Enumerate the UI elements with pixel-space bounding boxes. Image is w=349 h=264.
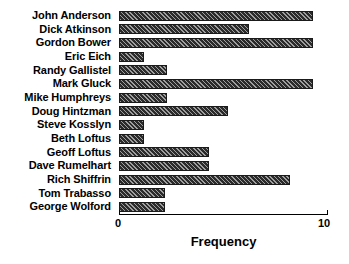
x-axis-tick-label: 0 bbox=[115, 217, 121, 229]
bar-row bbox=[119, 9, 328, 23]
x-axis-line bbox=[119, 214, 328, 215]
bar bbox=[119, 120, 144, 130]
bar-row bbox=[119, 77, 328, 91]
category-label: Tom Trabasso bbox=[0, 187, 115, 201]
category-label: Mark Gluck bbox=[0, 77, 115, 91]
x-axis-title: Frequency bbox=[119, 234, 328, 249]
category-label: Steve Kosslyn bbox=[0, 118, 115, 132]
bar bbox=[119, 38, 313, 48]
category-label: Beth Loftus bbox=[0, 132, 115, 146]
category-label: George Wolford bbox=[0, 200, 115, 214]
bar-row bbox=[119, 23, 328, 37]
bar bbox=[119, 147, 209, 157]
x-axis-tick-10 bbox=[327, 210, 328, 215]
category-label: Randy Gallistel bbox=[0, 64, 115, 78]
bar bbox=[119, 65, 167, 75]
category-label: Rich Shiffrin bbox=[0, 173, 115, 187]
bar-row bbox=[119, 159, 328, 173]
bar bbox=[119, 93, 167, 103]
bar-row bbox=[119, 187, 328, 201]
category-label: Eric Eich bbox=[0, 50, 115, 64]
bar-row bbox=[119, 132, 328, 146]
bar-row bbox=[119, 173, 328, 187]
category-label: Doug Hintzman bbox=[0, 105, 115, 119]
category-label: Mike Humphreys bbox=[0, 91, 115, 105]
bar-row bbox=[119, 64, 328, 78]
bar bbox=[119, 161, 209, 171]
category-label: Dave Rumelhart bbox=[0, 159, 115, 173]
bar bbox=[119, 106, 228, 116]
bar-chart: John Anderson Dick Atkinson Gordon Bower… bbox=[0, 0, 349, 264]
category-label: John Anderson bbox=[0, 9, 115, 23]
category-label: Gordon Bower bbox=[0, 36, 115, 50]
bar-row bbox=[119, 118, 328, 132]
x-axis-tick-0 bbox=[119, 210, 120, 215]
bar bbox=[119, 202, 165, 212]
category-label-column: John Anderson Dick Atkinson Gordon Bower… bbox=[0, 9, 115, 214]
bar-row bbox=[119, 200, 328, 214]
bar-row bbox=[119, 105, 328, 119]
bar bbox=[119, 52, 144, 62]
bar-row bbox=[119, 50, 328, 64]
bar bbox=[119, 175, 290, 185]
category-label: Dick Atkinson bbox=[0, 23, 115, 37]
bar bbox=[119, 79, 313, 89]
plot-area bbox=[119, 9, 328, 214]
bar-row bbox=[119, 146, 328, 160]
bar bbox=[119, 188, 165, 198]
bar-row bbox=[119, 91, 328, 105]
bar bbox=[119, 134, 144, 144]
bar-row bbox=[119, 36, 328, 50]
x-axis-tick-label: 10 bbox=[318, 217, 330, 229]
category-label: Geoff Loftus bbox=[0, 146, 115, 160]
bar bbox=[119, 11, 313, 21]
bar bbox=[119, 24, 249, 34]
